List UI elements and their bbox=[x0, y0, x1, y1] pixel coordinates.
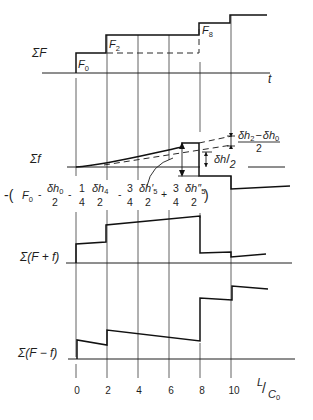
offset-formula: -( F0 - δh0 2 - 1 4 δh4 2 - 3 4 δh′5 2 +… bbox=[4, 182, 209, 208]
formula-coef3-den: 4 bbox=[127, 196, 133, 208]
formula-coef3-num: 3 bbox=[127, 182, 133, 194]
panel-sum-F-plus-f: Σ(F + f) bbox=[19, 216, 292, 264]
delta-h-half-label: δh/2 bbox=[214, 151, 236, 170]
formula-open-paren: -( bbox=[4, 187, 14, 203]
step-label-F0: F0 bbox=[78, 58, 89, 73]
sum-F-dashed-reference bbox=[107, 25, 199, 53]
step-label-F2: F2 bbox=[109, 38, 120, 53]
formula-term1-num: δh0 bbox=[47, 182, 63, 196]
tick-label: 8 bbox=[199, 385, 205, 396]
panel-label-sum-F: ΣF bbox=[31, 46, 47, 60]
delta-h-difference-marker: δh2−δh0 2 bbox=[227, 129, 280, 154]
panel-label-sum-F-plus-f: Σ(F + f) bbox=[19, 250, 59, 264]
x-axis-label-slash: / bbox=[262, 380, 266, 396]
formula-op: - bbox=[38, 188, 42, 200]
formula-close-paren: ) bbox=[204, 187, 209, 203]
formula-coef4-den: 4 bbox=[173, 196, 179, 208]
formula-coef2-num: 1 bbox=[79, 182, 85, 194]
formula-F0: F0 bbox=[22, 189, 33, 204]
formula-coef4-num: 3 bbox=[173, 182, 179, 194]
tick-label: 6 bbox=[168, 385, 174, 396]
sum-F-plus-f-curve bbox=[76, 216, 266, 263]
formula-term4-den: 2 bbox=[191, 196, 197, 208]
sum-F-staircase bbox=[76, 15, 267, 73]
formula-op: - bbox=[68, 188, 72, 200]
delta-h-difference-numerator: δh2−δh0 bbox=[238, 129, 279, 143]
panel-label-sum-F-minus-f: Σ(F − f) bbox=[17, 346, 57, 360]
formula-op: - bbox=[118, 188, 122, 200]
formula-term2-num: δh4 bbox=[92, 182, 108, 196]
delta-h-difference-denominator: 2 bbox=[256, 142, 262, 154]
formula-term3-den: 2 bbox=[145, 196, 151, 208]
formula-term3-num: δh′5 bbox=[139, 182, 157, 196]
formula-term1-den: 2 bbox=[52, 196, 58, 208]
x-axis-label: L / C0 bbox=[257, 376, 280, 402]
formula-op: + bbox=[161, 188, 167, 200]
panel-sum-F: ΣF t F0 F2 F8 bbox=[31, 15, 272, 86]
time-axis-label: t bbox=[268, 72, 272, 86]
step-label-F8: F8 bbox=[202, 24, 213, 39]
wave-summation-diagram: ΣF t F0 F2 F8 Σf bbox=[0, 0, 313, 420]
x-axis-ticks: 0 2 4 6 8 10 bbox=[74, 385, 240, 396]
sum-f-lower-dashed bbox=[104, 145, 232, 165]
formula-term2-den: 2 bbox=[97, 196, 103, 208]
formula-coef2-den: 4 bbox=[79, 196, 85, 208]
sum-f-upper-dashed bbox=[199, 136, 232, 143]
delta-h-half-marker: δh/2 bbox=[202, 151, 236, 170]
drop-double-arrow bbox=[178, 142, 199, 177]
formula-term4-num: δh″5 bbox=[185, 182, 205, 196]
tick-label: 0 bbox=[74, 385, 80, 396]
panel-sum-F-minus-f: Σ(F − f) bbox=[17, 286, 295, 360]
tick-label: 2 bbox=[105, 385, 111, 396]
sum-F-minus-f-curve bbox=[77, 286, 268, 359]
x-axis-label-denominator: C0 bbox=[268, 388, 280, 402]
panel-label-sum-f: Σf bbox=[29, 152, 42, 166]
tick-label: 10 bbox=[228, 385, 240, 396]
tick-label: 4 bbox=[136, 385, 142, 396]
panel-sum-f: Σf δh/2 δ bbox=[29, 129, 290, 189]
